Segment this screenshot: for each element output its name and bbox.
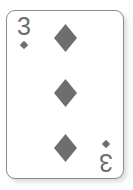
diamond-pip-3 — [54, 134, 77, 162]
pip-field — [7, 11, 123, 178]
card-scene: 3 3 — [0, 0, 133, 190]
diamond-pip-2 — [54, 79, 77, 107]
playing-card-three-of-diamonds[interactable]: 3 3 — [6, 10, 124, 179]
diamond-pip-1 — [54, 24, 77, 52]
